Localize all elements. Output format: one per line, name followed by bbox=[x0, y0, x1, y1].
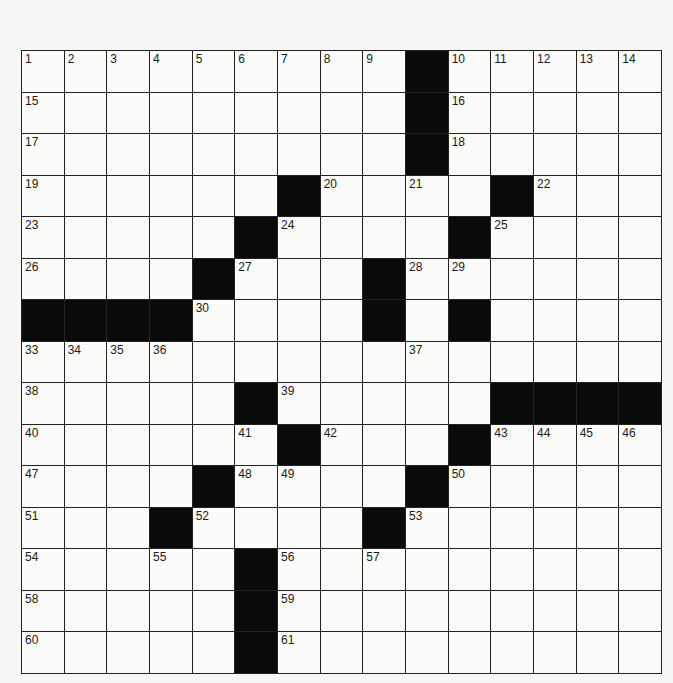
grid-cell[interactable] bbox=[491, 466, 533, 507]
grid-cell[interactable]: 40 bbox=[22, 425, 64, 466]
grid-cell[interactable] bbox=[449, 342, 491, 383]
grid-cell[interactable]: 54 bbox=[22, 549, 64, 590]
grid-cell[interactable] bbox=[65, 591, 107, 632]
grid-cell[interactable] bbox=[449, 549, 491, 590]
grid-cell[interactable]: 12 bbox=[534, 51, 576, 92]
grid-cell[interactable] bbox=[534, 508, 576, 549]
grid-cell[interactable]: 55 bbox=[150, 549, 192, 590]
grid-cell[interactable] bbox=[321, 217, 363, 258]
grid-cell[interactable] bbox=[150, 93, 192, 134]
grid-cell[interactable] bbox=[321, 591, 363, 632]
grid-cell[interactable]: 47 bbox=[22, 466, 64, 507]
grid-cell[interactable] bbox=[363, 93, 405, 134]
grid-cell[interactable]: 48 bbox=[235, 466, 277, 507]
grid-cell[interactable] bbox=[619, 549, 661, 590]
grid-cell[interactable]: 18 bbox=[449, 134, 491, 175]
grid-cell[interactable] bbox=[150, 466, 192, 507]
grid-cell[interactable]: 10 bbox=[449, 51, 491, 92]
grid-cell[interactable]: 44 bbox=[534, 425, 576, 466]
grid-cell[interactable] bbox=[406, 217, 448, 258]
grid-cell[interactable] bbox=[577, 508, 619, 549]
grid-cell[interactable]: 25 bbox=[491, 217, 533, 258]
grid-cell[interactable] bbox=[363, 632, 405, 673]
grid-cell[interactable] bbox=[619, 591, 661, 632]
grid-cell[interactable] bbox=[577, 300, 619, 341]
grid-cell[interactable] bbox=[449, 591, 491, 632]
grid-cell[interactable]: 4 bbox=[150, 51, 192, 92]
grid-cell[interactable] bbox=[619, 176, 661, 217]
grid-cell[interactable] bbox=[577, 342, 619, 383]
grid-cell[interactable] bbox=[107, 466, 149, 507]
grid-cell[interactable] bbox=[619, 632, 661, 673]
grid-cell[interactable] bbox=[193, 425, 235, 466]
grid-cell[interactable] bbox=[619, 300, 661, 341]
grid-cell[interactable] bbox=[235, 508, 277, 549]
grid-cell[interactable] bbox=[107, 134, 149, 175]
grid-cell[interactable] bbox=[235, 342, 277, 383]
grid-cell[interactable] bbox=[65, 217, 107, 258]
grid-cell[interactable] bbox=[534, 549, 576, 590]
grid-cell[interactable]: 5 bbox=[193, 51, 235, 92]
grid-cell[interactable] bbox=[65, 383, 107, 424]
grid-cell[interactable]: 61 bbox=[278, 632, 320, 673]
grid-cell[interactable] bbox=[619, 217, 661, 258]
grid-cell[interactable] bbox=[150, 134, 192, 175]
grid-cell[interactable] bbox=[363, 217, 405, 258]
grid-cell[interactable] bbox=[449, 176, 491, 217]
grid-cell[interactable]: 60 bbox=[22, 632, 64, 673]
grid-cell[interactable] bbox=[65, 176, 107, 217]
grid-cell[interactable] bbox=[534, 300, 576, 341]
grid-cell[interactable] bbox=[363, 134, 405, 175]
grid-cell[interactable] bbox=[619, 342, 661, 383]
grid-cell[interactable] bbox=[193, 217, 235, 258]
grid-cell[interactable] bbox=[491, 93, 533, 134]
grid-cell[interactable] bbox=[363, 425, 405, 466]
grid-cell[interactable]: 27 bbox=[235, 259, 277, 300]
grid-cell[interactable] bbox=[150, 591, 192, 632]
grid-cell[interactable] bbox=[193, 93, 235, 134]
grid-cell[interactable]: 41 bbox=[235, 425, 277, 466]
grid-cell[interactable] bbox=[107, 176, 149, 217]
grid-cell[interactable] bbox=[406, 425, 448, 466]
grid-cell[interactable] bbox=[491, 134, 533, 175]
grid-cell[interactable] bbox=[363, 383, 405, 424]
grid-cell[interactable] bbox=[65, 425, 107, 466]
grid-cell[interactable] bbox=[107, 383, 149, 424]
grid-cell[interactable] bbox=[65, 259, 107, 300]
grid-cell[interactable] bbox=[193, 632, 235, 673]
grid-cell[interactable]: 51 bbox=[22, 508, 64, 549]
grid-cell[interactable] bbox=[321, 508, 363, 549]
grid-cell[interactable]: 35 bbox=[107, 342, 149, 383]
grid-cell[interactable]: 56 bbox=[278, 549, 320, 590]
grid-cell[interactable]: 28 bbox=[406, 259, 448, 300]
grid-cell[interactable] bbox=[107, 591, 149, 632]
grid-cell[interactable]: 30 bbox=[193, 300, 235, 341]
grid-cell[interactable] bbox=[619, 466, 661, 507]
grid-cell[interactable] bbox=[491, 591, 533, 632]
grid-cell[interactable] bbox=[491, 300, 533, 341]
grid-cell[interactable] bbox=[150, 217, 192, 258]
grid-cell[interactable] bbox=[278, 134, 320, 175]
grid-cell[interactable] bbox=[235, 300, 277, 341]
grid-cell[interactable] bbox=[321, 342, 363, 383]
grid-cell[interactable] bbox=[193, 134, 235, 175]
grid-cell[interactable] bbox=[577, 259, 619, 300]
grid-cell[interactable]: 15 bbox=[22, 93, 64, 134]
grid-cell[interactable]: 53 bbox=[406, 508, 448, 549]
grid-cell[interactable] bbox=[363, 176, 405, 217]
grid-cell[interactable] bbox=[534, 466, 576, 507]
grid-cell[interactable] bbox=[65, 134, 107, 175]
grid-cell[interactable] bbox=[65, 466, 107, 507]
grid-cell[interactable]: 59 bbox=[278, 591, 320, 632]
grid-cell[interactable]: 29 bbox=[449, 259, 491, 300]
grid-cell[interactable] bbox=[363, 466, 405, 507]
grid-cell[interactable]: 38 bbox=[22, 383, 64, 424]
grid-cell[interactable]: 13 bbox=[577, 51, 619, 92]
grid-cell[interactable] bbox=[534, 591, 576, 632]
grid-cell[interactable]: 26 bbox=[22, 259, 64, 300]
grid-cell[interactable] bbox=[321, 549, 363, 590]
grid-cell[interactable] bbox=[107, 632, 149, 673]
grid-cell[interactable] bbox=[107, 93, 149, 134]
grid-cell[interactable] bbox=[235, 93, 277, 134]
grid-cell[interactable]: 21 bbox=[406, 176, 448, 217]
